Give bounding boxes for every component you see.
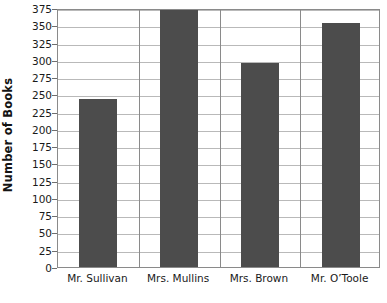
column-separator — [139, 10, 140, 267]
y-axis-tick-mark — [52, 113, 57, 114]
y-axis-title: Number of Books — [0, 0, 16, 270]
y-axis-tick-mark — [52, 216, 57, 217]
x-axis-tick-label: Mr. O’Toole — [299, 272, 380, 284]
column-separator — [300, 10, 301, 267]
y-axis-tick-mark — [52, 199, 57, 200]
x-axis-tick-labels: Mr. SullivanMrs. MullinsMrs. BrownMr. O’… — [57, 270, 380, 292]
bar — [241, 63, 279, 267]
y-axis-tick-label: 375 — [16, 4, 52, 15]
y-axis-tick-label: 50 — [16, 228, 52, 239]
y-axis-tick-label: 0 — [16, 263, 52, 274]
y-axis-tick-label: 25 — [16, 245, 52, 256]
y-axis-tick-label: 150 — [16, 159, 52, 170]
bar — [160, 9, 198, 267]
y-axis-title-label: Number of Books — [1, 78, 15, 192]
bar-chart: Number of Books 025507510012515017520022… — [0, 0, 387, 303]
y-axis-tick-mark — [52, 9, 57, 10]
y-axis-tick-label: 125 — [16, 176, 52, 187]
bar — [322, 23, 360, 267]
gridline — [58, 10, 379, 11]
y-axis-tick-mark — [52, 44, 57, 45]
y-axis-tick-mark — [52, 147, 57, 148]
y-axis-tick-label: 275 — [16, 73, 52, 84]
y-axis-tick-mark — [52, 95, 57, 96]
y-axis-tick-label: 250 — [16, 90, 52, 101]
y-axis-tick-mark — [52, 182, 57, 183]
bar — [79, 99, 117, 267]
y-axis-tick-mark — [52, 233, 57, 234]
y-axis-tick-label: 350 — [16, 21, 52, 32]
x-axis-tick-label: Mrs. Brown — [219, 272, 300, 284]
y-axis-tick-label: 100 — [16, 194, 52, 205]
y-axis-tick-mark — [52, 130, 57, 131]
x-axis-tick-label: Mr. Sullivan — [57, 272, 138, 284]
plot-area — [57, 9, 380, 268]
y-axis-tick-mark — [52, 251, 57, 252]
y-axis-tick-mark — [52, 61, 57, 62]
y-axis-tick-label: 175 — [16, 142, 52, 153]
y-axis-tick-mark — [52, 268, 57, 269]
y-axis-tick-label: 200 — [16, 125, 52, 136]
y-axis-tick-label: 225 — [16, 107, 52, 118]
y-axis-tick-label: 325 — [16, 38, 52, 49]
y-axis-tick-mark — [52, 26, 57, 27]
y-axis-tick-labels: 0255075100125150175200225250275300325350… — [16, 0, 52, 270]
y-axis-tick-label: 75 — [16, 211, 52, 222]
y-axis-tick-mark — [52, 164, 57, 165]
x-axis-tick-label: Mrs. Mullins — [138, 272, 219, 284]
y-axis-tick-label: 300 — [16, 56, 52, 67]
column-separator — [220, 10, 221, 267]
y-axis-tick-mark — [52, 78, 57, 79]
